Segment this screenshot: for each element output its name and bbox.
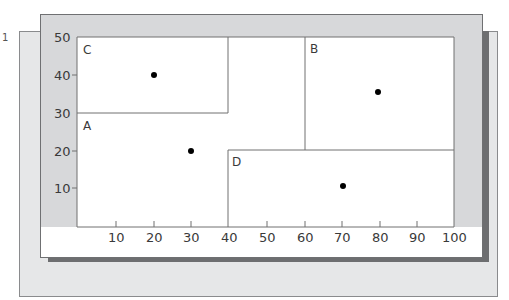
x-tick-40: 40 xyxy=(221,230,238,245)
x-tick-20: 20 xyxy=(146,230,163,245)
partition-diagram: 50 40 30 20 10 10 20 30 40 50 60 70 80 9… xyxy=(0,0,509,300)
x-axis: 10 20 30 40 50 60 70 80 90 100 xyxy=(108,221,467,245)
y-tick-20: 20 xyxy=(54,144,71,159)
y-tick-30: 30 xyxy=(54,106,71,121)
region-label-d: D xyxy=(232,155,241,169)
x-tick-50: 50 xyxy=(259,230,276,245)
region-label-b: B xyxy=(310,42,318,56)
y-tick-40: 40 xyxy=(54,68,71,83)
point-b xyxy=(375,89,381,95)
plot-border xyxy=(77,37,454,227)
point-d xyxy=(340,183,346,189)
y-axis: 50 40 30 20 10 xyxy=(54,30,77,196)
x-tick-10: 10 xyxy=(108,230,125,245)
x-tick-80: 80 xyxy=(372,230,389,245)
point-c xyxy=(151,72,157,78)
region-label-c: C xyxy=(83,43,91,57)
region-label-a: A xyxy=(83,119,92,133)
y-tick-50: 50 xyxy=(54,30,71,45)
region-d-boundary xyxy=(228,150,454,227)
x-tick-70: 70 xyxy=(334,230,351,245)
x-tick-60: 60 xyxy=(297,230,314,245)
x-tick-100: 100 xyxy=(442,230,467,245)
data-points xyxy=(151,72,381,189)
y-tick-10: 10 xyxy=(54,181,71,196)
x-tick-90: 90 xyxy=(409,230,426,245)
x-tick-30: 30 xyxy=(183,230,200,245)
point-a xyxy=(188,148,194,154)
